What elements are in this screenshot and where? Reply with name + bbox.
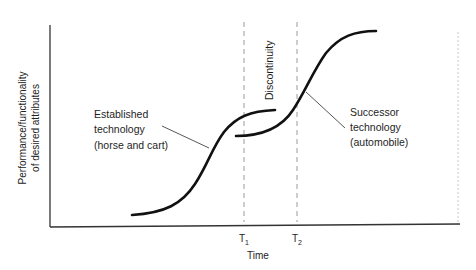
t1-label: T1 <box>239 233 249 246</box>
successor-label-line2: technology <box>350 121 402 133</box>
x-axis <box>50 224 460 227</box>
established-label-line1: Established <box>94 108 148 120</box>
established-label-line2: technology <box>94 123 146 135</box>
s-curve-diagram: Performance/functionality of desired att… <box>0 0 476 270</box>
discontinuity-label: Discontinuity <box>263 40 275 100</box>
established-leader-line <box>162 126 209 148</box>
successor-leader-line <box>306 92 345 128</box>
successor-label-line3: (automobile) <box>350 136 408 148</box>
established-technology-curve <box>132 110 275 215</box>
y-axis-label-line2: of desired attributes <box>30 84 41 172</box>
t2-label: T2 <box>292 233 302 246</box>
successor-label-line1: Successor <box>350 106 400 118</box>
established-label-line3: (horse and cart) <box>94 139 168 151</box>
established-technology-label: Established technology (horse and cart) <box>94 108 168 151</box>
y-axis-label-line1: Performance/functionality <box>17 72 28 185</box>
successor-technology-label: Successor technology (automobile) <box>350 106 408 148</box>
y-axis-label: Performance/functionality of desired att… <box>17 72 41 185</box>
x-axis-label: Time <box>247 250 269 261</box>
